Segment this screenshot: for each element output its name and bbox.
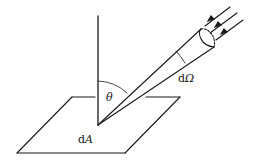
solid-angle-cone <box>98 29 215 125</box>
solid-angle-label: dΩ <box>178 73 194 84</box>
incident-ray-arrows <box>205 7 243 40</box>
arrowhead-icon <box>215 22 221 27</box>
theta-label: θ <box>106 92 113 103</box>
solid-angle-arc <box>176 51 185 63</box>
solid-angle-symbol: Ω <box>185 72 194 85</box>
diagram-canvas <box>0 0 255 165</box>
arrowhead-icon <box>221 29 227 34</box>
area-symbol: A <box>85 133 93 146</box>
area-label: dA <box>78 134 93 145</box>
solid-angle-d: d <box>178 72 185 85</box>
area-d: d <box>78 133 85 146</box>
